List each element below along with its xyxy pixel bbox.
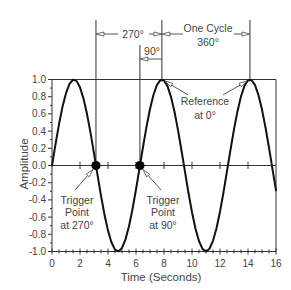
y-tick-label: 1.0 — [32, 74, 46, 85]
x-tick-label: 4 — [105, 258, 111, 269]
dim-360-left-arrowhead-icon — [162, 32, 170, 36]
y-tick-label: -0.8 — [29, 229, 47, 240]
trigger-270-shaft — [75, 176, 88, 190]
dim-270-right-arrowhead-icon — [154, 32, 162, 36]
y-axis: 1.00.80.60.40.20.0-0.2-0.4-0.6-0.8-1.0 — [29, 74, 52, 257]
reference-label: Reference — [181, 95, 230, 107]
trigger-90-label-line2: Point — [151, 206, 175, 218]
x-tick-label: 12 — [214, 258, 226, 269]
zero-line — [52, 162, 276, 169]
y-axis-title: Amplitude — [18, 138, 30, 189]
y-tick-label: -0.6 — [29, 212, 47, 223]
x-tick-label: 8 — [161, 258, 167, 269]
y-tick-label: 0.0 — [32, 160, 46, 171]
y-tick-label: 0.4 — [32, 126, 46, 137]
one-cycle-degrees-label: 360° — [197, 36, 219, 48]
dimension-label-90: 90° — [144, 45, 160, 57]
trigger-90-label-line3: at 90° — [149, 219, 177, 231]
x-tick-label: 2 — [77, 258, 83, 269]
trigger-270-label-line1: Trigger — [61, 194, 94, 206]
x-tick-label: 0 — [49, 258, 55, 269]
dim-90-arrowhead-icon — [140, 57, 148, 61]
trigger-point-270-dot — [91, 161, 100, 170]
dimension-label-270: 270° — [122, 28, 144, 40]
trigger-point-90-dot — [135, 161, 144, 170]
one-cycle-label: One Cycle — [183, 22, 232, 34]
y-tick-label: 0.6 — [32, 108, 46, 119]
x-tick-label: 16 — [270, 258, 282, 269]
reference-right-shaft — [223, 85, 240, 95]
y-tick-label: 0.2 — [32, 143, 46, 154]
trigger-90-shaft — [148, 175, 161, 190]
trigger-270-label-line3: at 270° — [60, 219, 93, 231]
x-tick-label: 10 — [186, 258, 198, 269]
x-tick-label: 14 — [242, 258, 254, 269]
x-tick-label: 6 — [133, 258, 139, 269]
dim-360-right-arrowhead-icon — [242, 32, 250, 36]
dim-270-left-arrowhead-icon — [96, 32, 104, 36]
y-tick-label: -0.4 — [29, 194, 47, 205]
y-tick-label: -1.0 — [29, 246, 47, 257]
trigger-270-label-line2: Point — [65, 206, 89, 218]
x-axis-title: Time (Seconds) — [121, 271, 202, 283]
y-tick-label: -0.2 — [29, 177, 47, 188]
y-tick-label: 0.8 — [32, 91, 46, 102]
reference-degrees-label: at 0° — [194, 109, 216, 121]
dimension-arrows — [96, 32, 250, 61]
trigger-90-label-line1: Trigger — [147, 194, 180, 206]
sine-wave-chart: 0246810121416 1.00.80.60.40.20.0-0.2-0.4… — [0, 0, 291, 290]
